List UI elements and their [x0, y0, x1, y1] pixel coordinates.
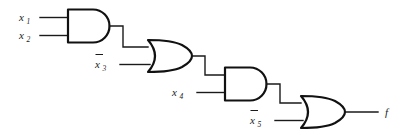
circuit-canvas: x 1 x 2 x 3 x 4 x 5 f: [0, 0, 409, 138]
label-f-output: f: [385, 106, 390, 118]
label-x4-subscript: 4: [180, 92, 184, 101]
label-x1: x 1: [18, 11, 30, 26]
wire-and2-to-or2: [267, 84, 302, 103]
label-x2: x 2: [18, 29, 31, 44]
wire-and1-to-or1: [110, 26, 149, 47]
label-x2-subscript: 2: [27, 35, 31, 44]
label-x5-complement: x 5: [249, 111, 262, 130]
or-gate-1: [148, 40, 192, 72]
label-x4: x 4: [171, 86, 184, 101]
wire-or1-to-and2: [192, 56, 225, 75]
label-x4-base: x: [171, 86, 177, 98]
label-f-base: f: [385, 106, 390, 118]
logic-circuit-figure: x 1 x 2 x 3 x 4 x 5 f: [0, 0, 409, 138]
label-x3-complement: x 3: [94, 55, 107, 74]
and-gate-2: [225, 68, 267, 101]
label-x1-base: x: [18, 11, 24, 23]
label-x5-base: x: [249, 114, 255, 126]
or-gate-2: [301, 96, 345, 128]
label-x1-subscript: 1: [27, 17, 31, 26]
label-x3-base: x: [94, 58, 100, 70]
label-x2-base: x: [18, 29, 24, 41]
label-x3-subscript: 3: [102, 64, 107, 73]
and-gate-1: [68, 10, 110, 43]
label-x5-subscript: 5: [258, 120, 262, 129]
